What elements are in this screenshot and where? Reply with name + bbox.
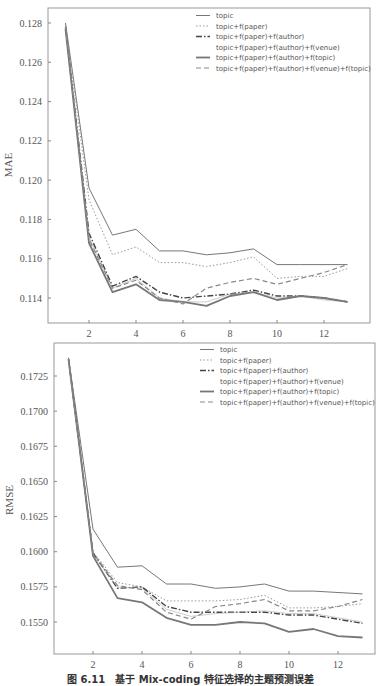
- y-tick-label: 0.128: [20, 18, 43, 29]
- y-tick-label: 0.122: [20, 135, 43, 146]
- y-tick-label: 0.114: [20, 293, 42, 304]
- legend-label: topic+f(paper)+f(author): [216, 33, 305, 41]
- y-tick-label: 0.1650: [21, 476, 49, 487]
- legend-label: topic+f(paper)+f(author)+f(topic): [216, 54, 336, 62]
- y-axis-label: RMSE: [3, 485, 15, 515]
- x-tick-label: 4: [134, 328, 139, 339]
- legend-label: topic: [220, 346, 237, 354]
- mae-chart: 0.1140.1160.1180.1200.1220.1240.1260.128…: [2, 8, 371, 339]
- legend-label: topic+f(paper): [220, 357, 272, 365]
- x-tick-label: 8: [228, 328, 233, 339]
- y-tick-label: 0.1725: [21, 371, 49, 382]
- legend-label: topic+f(paper)+f(author)+f(venue): [220, 378, 344, 386]
- rmse-chart: 0.15500.15750.16000.16250.16500.16750.17…: [3, 343, 375, 670]
- legend: topictopic+f(paper)topic+f(paper)+f(auth…: [196, 12, 371, 73]
- y-tick-label: 0.126: [20, 57, 43, 68]
- legend-label: topic+f(paper)+f(author)+f(venue)+f(topi…: [220, 399, 375, 407]
- y-tick-label: 0.124: [20, 96, 43, 107]
- y-tick-label: 0.116: [20, 253, 42, 264]
- y-tick-label: 0.118: [20, 214, 42, 225]
- y-tick-label: 0.1625: [21, 511, 49, 522]
- legend-label: topic+f(paper)+f(author)+f(topic): [220, 388, 340, 396]
- x-tick-label: 12: [319, 328, 329, 339]
- series-line-1: [69, 359, 363, 608]
- y-tick-label: 0.1575: [21, 581, 49, 592]
- figure-caption: 图 6.11 基于 Mix-coding 特征选择的主题预测误差: [0, 671, 381, 686]
- x-tick-label: 2: [91, 659, 96, 670]
- x-tick-label: 6: [189, 659, 194, 670]
- x-tick-label: 10: [284, 659, 294, 670]
- legend-label: topic+f(paper): [216, 23, 268, 31]
- y-tick-label: 0.1700: [21, 406, 49, 417]
- x-tick-label: 10: [272, 328, 282, 339]
- y-tick-label: 0.120: [20, 175, 43, 186]
- x-tick-label: 6: [181, 328, 186, 339]
- y-tick-label: 0.1550: [21, 617, 49, 628]
- x-tick-label: 12: [333, 659, 343, 670]
- y-tick-label: 0.1675: [21, 441, 49, 452]
- legend: topictopic+f(paper)topic+f(paper)+f(auth…: [200, 346, 375, 407]
- legend-label: topic: [216, 12, 233, 20]
- y-tick-label: 0.1600: [21, 546, 49, 557]
- legend-label: topic+f(paper)+f(author)+f(venue): [216, 44, 340, 52]
- series-line-1: [66, 25, 348, 278]
- x-tick-label: 4: [140, 659, 145, 670]
- legend-label: topic+f(paper)+f(author): [220, 367, 309, 375]
- y-axis-label: MAE: [2, 153, 14, 178]
- legend-label: topic+f(paper)+f(author)+f(venue)+f(topi…: [216, 65, 371, 73]
- x-tick-label: 2: [87, 328, 92, 339]
- x-tick-label: 8: [238, 659, 243, 670]
